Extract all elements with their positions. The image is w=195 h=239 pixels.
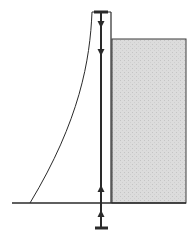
deflection-curve [30,12,92,203]
arrow-down-icon [98,49,105,56]
diagram-canvas [0,0,195,239]
shaded-block [112,39,186,203]
arrow-up-icon [98,185,105,192]
arrow-up-icon [98,210,105,217]
arrow-down-icon [98,21,105,28]
